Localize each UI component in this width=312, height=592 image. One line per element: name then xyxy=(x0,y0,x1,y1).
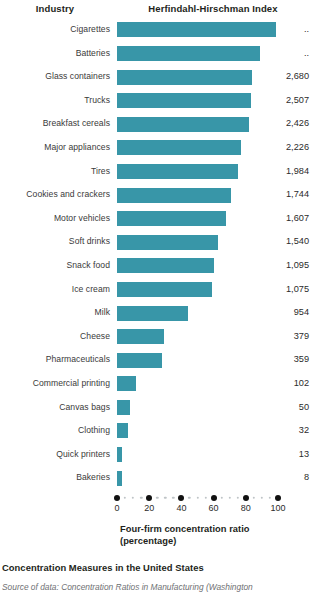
axis-minor-dot xyxy=(164,497,166,499)
axis-tick-label: 60 xyxy=(209,503,219,513)
row-industry-label: Cookies and crackers xyxy=(26,189,110,199)
row-bar xyxy=(117,282,212,297)
row-hhi-value: 50 xyxy=(281,402,309,412)
row-industry-label: Snack food xyxy=(67,260,111,270)
row-bar xyxy=(117,188,231,203)
row-hhi-value: 8 xyxy=(281,472,309,482)
row-hhi-value: 2,226 xyxy=(281,142,309,152)
row-hhi-value: 1,095 xyxy=(281,260,309,270)
axis-minor-dot xyxy=(261,497,263,499)
row-industry-label: Canvas bags xyxy=(59,402,110,412)
table-row: Milk954 xyxy=(0,302,312,326)
table-row: Tires1,984 xyxy=(0,161,312,185)
x-axis-tick-labels: 020406080100 xyxy=(0,503,312,517)
table-row: Batteries.. xyxy=(0,43,312,67)
row-bar xyxy=(117,117,249,132)
table-row: Ice cream1,075 xyxy=(0,279,312,303)
row-hhi-value: 1,607 xyxy=(281,213,309,223)
axis-tick-dot xyxy=(275,495,281,501)
axis-tick-dot xyxy=(243,495,249,501)
axis-tick-dot xyxy=(178,495,184,501)
row-hhi-value: .. xyxy=(281,24,309,34)
row-bar xyxy=(117,22,276,37)
row-hhi-value: 2,426 xyxy=(281,118,309,128)
row-industry-label: Trucks xyxy=(84,95,110,105)
table-row: Snack food1,095 xyxy=(0,255,312,279)
row-bar xyxy=(117,211,226,226)
row-industry-label: Bakeries xyxy=(76,472,110,482)
axis-minor-dot xyxy=(124,497,126,499)
table-row: Pharmaceuticals359 xyxy=(0,349,312,373)
axis-tick-label: 20 xyxy=(144,503,154,513)
row-bar xyxy=(117,258,214,273)
x-axis-caption-line2: (percentage) xyxy=(120,536,310,548)
row-bar xyxy=(117,93,251,108)
row-industry-label: Commercial printing xyxy=(33,378,110,388)
row-industry-label: Milk xyxy=(95,307,110,317)
row-bar xyxy=(117,46,260,61)
table-row: Commercial printing102 xyxy=(0,373,312,397)
row-hhi-value: 359 xyxy=(281,354,309,364)
table-row: Trucks2,507 xyxy=(0,90,312,114)
row-industry-label: Pharmaceuticals xyxy=(46,354,110,364)
row-bar-track xyxy=(117,376,278,391)
axis-minor-dot xyxy=(132,497,134,499)
row-bar xyxy=(117,329,164,344)
row-hhi-value: 2,507 xyxy=(281,95,309,105)
bar-rows: Cigarettes..Batteries..Glass containers2… xyxy=(0,19,312,491)
row-bar xyxy=(117,306,188,321)
header-hhi: Herfindahl-Hirschman Index xyxy=(118,3,308,14)
row-hhi-value: 954 xyxy=(281,307,309,317)
table-row: Motor vehicles1,607 xyxy=(0,208,312,232)
table-row: Clothing32 xyxy=(0,420,312,444)
row-bar-track xyxy=(117,329,278,344)
axis-minor-dot xyxy=(204,497,206,499)
row-bar xyxy=(117,353,162,368)
figure-source: Source of data: Concentration Ratios in … xyxy=(2,582,310,592)
row-hhi-value: 379 xyxy=(281,331,309,341)
axis-minor-dot xyxy=(220,497,222,499)
row-industry-label: Tires xyxy=(91,166,110,176)
axis-minor-dot xyxy=(140,497,142,499)
chart-figure: Industry Herfindahl-Hirschman Index Ciga… xyxy=(0,0,312,592)
table-row: Soft drinks1,540 xyxy=(0,231,312,255)
row-bar-track xyxy=(117,447,278,462)
axis-minor-dot xyxy=(253,497,255,499)
axis-tick-dot xyxy=(146,495,152,501)
row-hhi-value: 102 xyxy=(281,378,309,388)
row-bar-track xyxy=(117,70,278,85)
row-bar xyxy=(117,471,122,486)
row-hhi-value: .. xyxy=(281,48,309,58)
figure-title: Concentration Measures in the United Sta… xyxy=(2,562,310,573)
table-row: Breakfast cereals2,426 xyxy=(0,113,312,137)
row-bar xyxy=(117,140,241,155)
row-bar-track xyxy=(117,282,278,297)
axis-tick-label: 0 xyxy=(114,503,119,513)
row-industry-label: Cheese xyxy=(80,331,110,341)
table-row: Quick printers13 xyxy=(0,444,312,468)
axis-tick-label: 80 xyxy=(241,503,251,513)
table-row: Major appliances2,226 xyxy=(0,137,312,161)
row-hhi-value: 1,075 xyxy=(281,284,309,294)
row-bar-track xyxy=(117,46,278,61)
table-row: Bakeries8 xyxy=(0,467,312,491)
row-hhi-value: 1,744 xyxy=(281,189,309,199)
row-bar-track xyxy=(117,235,278,250)
axis-minor-dot xyxy=(196,497,198,499)
axis-minor-dot xyxy=(188,497,190,499)
row-bar-track xyxy=(117,306,278,321)
row-industry-label: Motor vehicles xyxy=(54,213,110,223)
row-hhi-value: 1,540 xyxy=(281,236,309,246)
row-bar xyxy=(117,235,218,250)
row-bar-track xyxy=(117,258,278,273)
row-bar-track xyxy=(117,140,278,155)
row-industry-label: Batteries xyxy=(76,48,110,58)
axis-minor-dot xyxy=(269,497,271,499)
row-bar xyxy=(117,447,122,462)
row-hhi-value: 1,984 xyxy=(281,166,309,176)
table-row: Cigarettes.. xyxy=(0,19,312,43)
axis-tick-dot xyxy=(211,495,217,501)
axis-tick-label: 40 xyxy=(176,503,186,513)
row-industry-label: Soft drinks xyxy=(69,236,110,246)
row-industry-label: Breakfast cereals xyxy=(43,118,110,128)
